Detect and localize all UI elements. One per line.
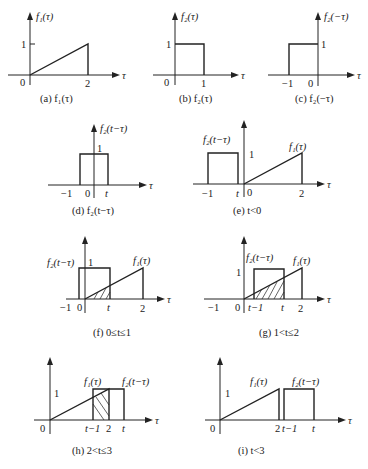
tick-0: 0 bbox=[235, 302, 240, 313]
tick-neg1: −1 bbox=[282, 78, 293, 89]
f1-label: f₁(τ) bbox=[84, 376, 102, 388]
tick-t: t bbox=[122, 423, 126, 434]
tau-label: τ bbox=[357, 70, 362, 81]
tick-t: t bbox=[236, 188, 240, 199]
y-axis-arrow-icon bbox=[27, 12, 33, 20]
tick-neg1: −1 bbox=[208, 302, 219, 313]
caption: (i) t<3 bbox=[238, 445, 265, 457]
tau-axis-arrow-icon bbox=[338, 417, 346, 423]
y-axis-arrow-icon bbox=[241, 120, 247, 128]
f2-shifted-rect bbox=[284, 389, 314, 420]
f1-label: f₁(τ) bbox=[289, 141, 307, 153]
f2-label: f₂(t−τ) bbox=[246, 252, 274, 264]
panel-c: f₂(−τ) 1 −1 0 τ (c) f₂(−τ) bbox=[268, 11, 362, 105]
tau-label: τ bbox=[327, 179, 332, 190]
y-axis-arrow-icon bbox=[172, 12, 178, 20]
f1-ramp bbox=[85, 268, 143, 299]
f2-label: f₂(t−τ) bbox=[47, 257, 75, 269]
tick-t: t bbox=[281, 302, 285, 313]
f2-label: f₂(t−τ) bbox=[122, 376, 150, 388]
rect-signal bbox=[175, 44, 204, 75]
y-axis-arrow-icon bbox=[82, 236, 88, 244]
panel-g: f₂(t−τ) f₁(τ) 1 −1 0 t−1 t 2 τ (g) 1<t≤2 bbox=[204, 236, 332, 339]
tau-axis-arrow-icon bbox=[231, 72, 239, 78]
caption: (g) 1<t≤2 bbox=[259, 327, 299, 339]
caption: (c) f₂(−τ) bbox=[295, 93, 334, 105]
tick-0: 0 bbox=[77, 302, 82, 313]
ytick-label: 1 bbox=[249, 149, 254, 160]
y-axis-arrow-icon bbox=[91, 124, 97, 132]
ylabel: f₂(−τ) bbox=[324, 11, 349, 23]
caption: (h) 2<t≤3 bbox=[72, 445, 112, 457]
tick-0: 0 bbox=[308, 78, 313, 89]
tick-2: 2 bbox=[106, 423, 111, 434]
tau-label: τ bbox=[122, 70, 127, 81]
tick-t-minus-1: t−1 bbox=[85, 423, 100, 434]
ytick-label: 1 bbox=[54, 388, 59, 399]
tick-1: 1 bbox=[201, 78, 206, 89]
panel-d: f₂(t−τ) 1 −1 0 t τ (d) f₂(t−τ) bbox=[48, 123, 154, 217]
ytick-label: 1 bbox=[88, 257, 93, 268]
panel-b: f₂(τ) 1 0 1 τ (b) f₂(τ) bbox=[153, 11, 246, 105]
caption: (a) f₁(τ) bbox=[40, 93, 73, 105]
tick-0: 0 bbox=[20, 77, 25, 88]
caption: (f) 0≤t≤1 bbox=[93, 327, 131, 339]
y-axis-arrow-icon bbox=[315, 12, 321, 20]
ramp-signal bbox=[30, 44, 88, 75]
panel-e: f₂(t−τ) f₁(τ) 1 −1 t 0 2 τ (e) t<0 bbox=[193, 120, 332, 217]
ytick-label: 1 bbox=[236, 267, 241, 278]
tau-axis-arrow-icon bbox=[145, 417, 153, 423]
tick-0: 0 bbox=[40, 423, 45, 434]
y-axis-arrow-icon bbox=[241, 236, 247, 244]
tick-0: 0 bbox=[210, 423, 215, 434]
ytick-label: 1 bbox=[97, 143, 102, 154]
ytick-label: 1 bbox=[166, 39, 171, 50]
tick-2: 2 bbox=[299, 188, 304, 199]
tick-neg1: −1 bbox=[60, 302, 71, 313]
ylabel: f₂(t−τ) bbox=[100, 123, 128, 135]
panel-f: f₂(t−τ) f₁(τ) 1 −1 0 t 2 τ (f) 0≤t≤1 bbox=[47, 236, 172, 339]
f2-shifted-rect bbox=[208, 153, 238, 184]
panel-a: f₁(τ) 1 0 2 τ (a) f₁(τ) bbox=[8, 11, 127, 105]
ylabel: f₂(τ) bbox=[181, 11, 199, 23]
tau-axis-arrow-icon bbox=[139, 182, 147, 188]
panel-h: f₁(τ) f₂(t−τ) 1 0 t−1 2 t τ (h) 2<t≤3 bbox=[34, 357, 160, 457]
f2-label: f₂(t−τ) bbox=[203, 134, 231, 146]
f2-label: f₂(t−τ) bbox=[292, 376, 320, 388]
tau-axis-arrow-icon bbox=[157, 296, 165, 302]
y-axis-arrow-icon bbox=[47, 357, 53, 365]
f1-label: f₁(τ) bbox=[133, 255, 151, 267]
tick-t: t bbox=[312, 423, 316, 434]
caption: (b) f₂(τ) bbox=[179, 93, 213, 105]
ytick-label: 1 bbox=[225, 388, 230, 399]
tick-2: 2 bbox=[85, 78, 90, 89]
caption: (e) t<0 bbox=[233, 205, 261, 217]
tau-label: τ bbox=[348, 415, 353, 426]
tick-2: 2 bbox=[140, 303, 145, 314]
tick-neg1: −1 bbox=[61, 188, 72, 199]
f1-label: f₁(τ) bbox=[293, 255, 311, 267]
tau-label: τ bbox=[167, 294, 172, 305]
tau-label: τ bbox=[241, 70, 246, 81]
tick-t-minus-1: t−1 bbox=[248, 302, 263, 313]
tick-0: 0 bbox=[247, 187, 252, 198]
overlap-hatch bbox=[93, 393, 109, 420]
tick-2: 2 bbox=[298, 303, 303, 314]
tau-label: τ bbox=[149, 180, 154, 191]
rect-signal bbox=[289, 44, 318, 75]
tick-0: 0 bbox=[164, 77, 169, 88]
tick-t: t bbox=[107, 302, 111, 313]
tick-neg1: −1 bbox=[202, 188, 213, 199]
tick-t: t bbox=[105, 188, 109, 199]
tau-label: τ bbox=[327, 294, 332, 305]
tick-2: 2 bbox=[275, 423, 280, 434]
tau-axis-arrow-icon bbox=[112, 72, 120, 78]
tau-axis-arrow-icon bbox=[347, 72, 355, 78]
ytick-label: 1 bbox=[21, 39, 26, 50]
convolution-figure: f₁(τ) 1 0 2 τ (a) f₁(τ) f₂(τ) 1 0 1 τ (b… bbox=[0, 0, 368, 469]
f1-ramp bbox=[244, 268, 302, 299]
panel-i: f₁(τ) f₂(t−τ) 1 0 2 t−1 t τ (i) t<3 bbox=[205, 357, 353, 457]
caption: (d) f₂(t−τ) bbox=[72, 205, 115, 217]
tick-0: 0 bbox=[85, 188, 90, 199]
tau-label: τ bbox=[155, 415, 160, 426]
